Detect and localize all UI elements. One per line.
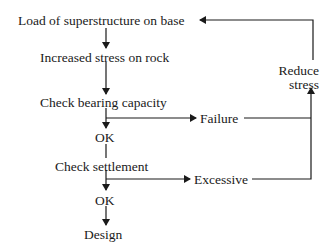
node-check-settlement: Check settlement bbox=[55, 160, 148, 174]
node-check-bearing: Check bearing capacity bbox=[40, 96, 167, 110]
node-reduce-line2: stress bbox=[270, 78, 319, 92]
flowchart-canvas: Load of superstructure on base Increased… bbox=[0, 0, 329, 247]
node-ok-1: OK bbox=[95, 131, 115, 145]
flowchart-connectors bbox=[0, 0, 329, 247]
node-design: Design bbox=[84, 228, 122, 242]
node-reduce-line1: Reduce bbox=[270, 64, 319, 78]
arrow-excessive-to-reduce bbox=[252, 88, 311, 179]
arrow-reduce-to-load bbox=[200, 20, 313, 60]
node-failure: Failure bbox=[200, 112, 238, 126]
node-excessive: Excessive bbox=[194, 173, 248, 187]
node-ok-2: OK bbox=[95, 194, 115, 208]
node-load: Load of superstructure on base bbox=[18, 14, 184, 28]
node-increased-stress: Increased stress on rock bbox=[40, 51, 169, 65]
